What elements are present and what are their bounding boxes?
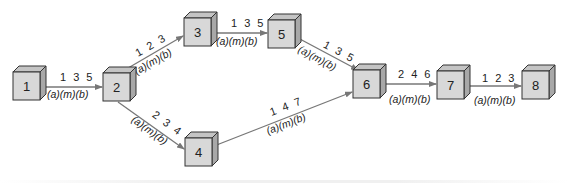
- node-label: 7: [447, 78, 454, 93]
- nodes: 12354678: [13, 12, 555, 166]
- edge-7-8-times: 1 2 3: [482, 72, 516, 84]
- edge-3-5-estimates: (a)(m)(b): [216, 35, 257, 47]
- cube-side-face: [130, 67, 136, 101]
- node-2-cube: 2: [103, 67, 136, 101]
- cube-side-face: [212, 132, 218, 166]
- node-label: 4: [195, 145, 202, 160]
- cube-side-face: [549, 65, 555, 99]
- node-label: 6: [363, 77, 370, 92]
- cube-side-face: [211, 12, 217, 46]
- cube-side-face: [295, 14, 301, 48]
- node-4-cube: 4: [185, 132, 218, 166]
- node-label: 1: [23, 79, 30, 94]
- edge-6-7-estimates: (a)(m)(b): [389, 93, 430, 105]
- edge-7-8-estimates: (a)(m)(b): [474, 94, 515, 106]
- node-5-cube: 5: [268, 14, 301, 48]
- edge-1-2-times: 1 3 5: [60, 71, 94, 83]
- edge-1-2-estimates: (a)(m)(b): [47, 88, 88, 100]
- cube-side-face: [464, 65, 470, 99]
- node-6-cube: 6: [353, 64, 386, 98]
- node-3-cube: 3: [184, 12, 217, 46]
- cube-side-face: [40, 66, 46, 100]
- node-1-cube: 1: [13, 66, 46, 100]
- cube-side-face: [380, 64, 386, 98]
- node-7-cube: 7: [437, 65, 470, 99]
- node-label: 2: [113, 80, 120, 95]
- node-8-cube: 8: [522, 65, 555, 99]
- node-label: 5: [278, 27, 285, 42]
- node-label: 3: [194, 25, 201, 40]
- bottom-divider: [0, 180, 567, 183]
- node-label: 8: [532, 78, 539, 93]
- edge-6-7-times: 2 4 6: [398, 68, 432, 80]
- pert-network-diagram: 1 3 5 (a)(m)(b) 1 2 3 (a)(m)(b) 2 3 4 (a…: [0, 0, 567, 183]
- edge-3-5-times: 1 3 5: [231, 17, 265, 29]
